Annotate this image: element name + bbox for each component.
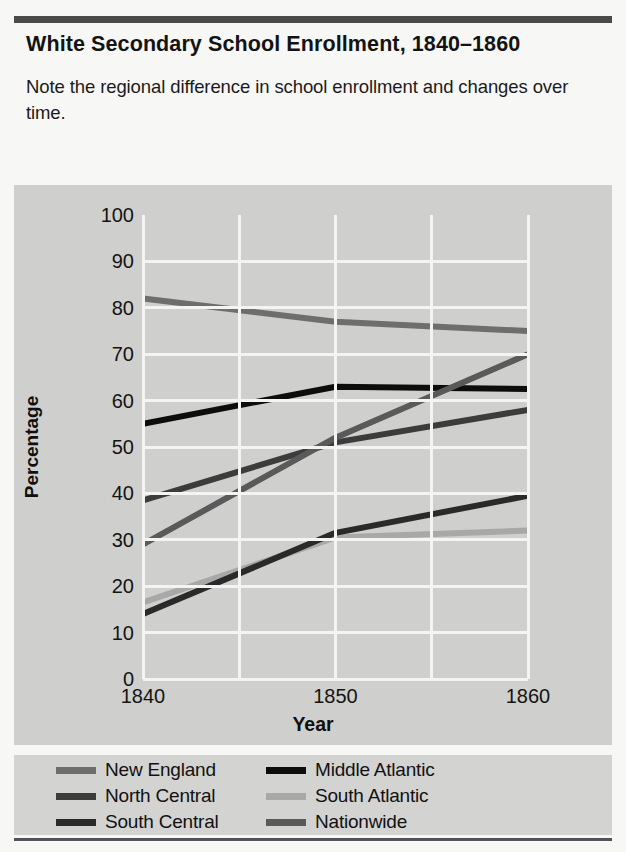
y-tick-label: 90 (112, 250, 134, 273)
bottom-rule (14, 838, 612, 841)
plot-area (143, 215, 528, 679)
legend-label: Nationwide (315, 811, 407, 833)
y-axis-ticks: 0102030405060708090100 (74, 215, 134, 679)
y-tick-label: 30 (112, 528, 134, 551)
legend-grid: New EnglandMiddle AtlanticNorth CentralS… (56, 757, 496, 835)
y-tick-label: 10 (112, 621, 134, 644)
gridline-vertical (334, 215, 337, 679)
legend-item[interactable]: North Central (56, 785, 266, 807)
legend-swatch-icon (56, 819, 96, 826)
legend-item[interactable]: South Central (56, 811, 266, 833)
gridline-vertical (238, 215, 241, 679)
legend-swatch-icon (266, 767, 306, 774)
y-tick-label: 20 (112, 575, 134, 598)
gridline-vertical (142, 215, 145, 679)
legend-swatch-icon (56, 767, 96, 774)
chart-panel: Percentage 0102030405060708090100 184018… (14, 185, 612, 745)
legend-label: South Atlantic (315, 785, 428, 807)
x-axis-label: Year (14, 713, 612, 736)
legend-item[interactable]: Middle Atlantic (266, 759, 496, 781)
figure-card: White Secondary School Enrollment, 1840–… (0, 0, 626, 852)
chart-legend: New EnglandMiddle AtlanticNorth CentralS… (14, 755, 612, 835)
page-title: White Secondary School Enrollment, 1840–… (26, 30, 586, 59)
gridline-vertical (430, 215, 433, 679)
top-rule (14, 16, 612, 23)
x-tick-label: 1850 (313, 685, 358, 708)
y-tick-label: 40 (112, 482, 134, 505)
x-tick-label: 1840 (121, 685, 166, 708)
legend-label: North Central (105, 785, 215, 807)
figure-caption: Note the regional difference in school e… (26, 74, 586, 127)
legend-label: New England (105, 759, 216, 781)
x-tick-label: 1860 (506, 685, 551, 708)
legend-swatch-icon (266, 793, 306, 800)
legend-swatch-icon (266, 819, 306, 826)
y-tick-label: 70 (112, 343, 134, 366)
legend-swatch-icon (56, 793, 96, 800)
y-tick-label: 60 (112, 389, 134, 412)
legend-label: Middle Atlantic (315, 759, 435, 781)
y-tick-label: 50 (112, 436, 134, 459)
y-axis-label: Percentage (21, 396, 43, 498)
y-tick-label: 100 (101, 204, 134, 227)
legend-item[interactable]: Nationwide (266, 811, 496, 833)
figure-header: White Secondary School Enrollment, 1840–… (26, 30, 586, 126)
legend-item[interactable]: New England (56, 759, 266, 781)
gridline-vertical (527, 215, 530, 679)
legend-label: South Central (105, 811, 219, 833)
x-axis-ticks: 184018501860 (14, 685, 612, 713)
legend-item[interactable]: South Atlantic (266, 785, 496, 807)
y-tick-label: 80 (112, 296, 134, 319)
